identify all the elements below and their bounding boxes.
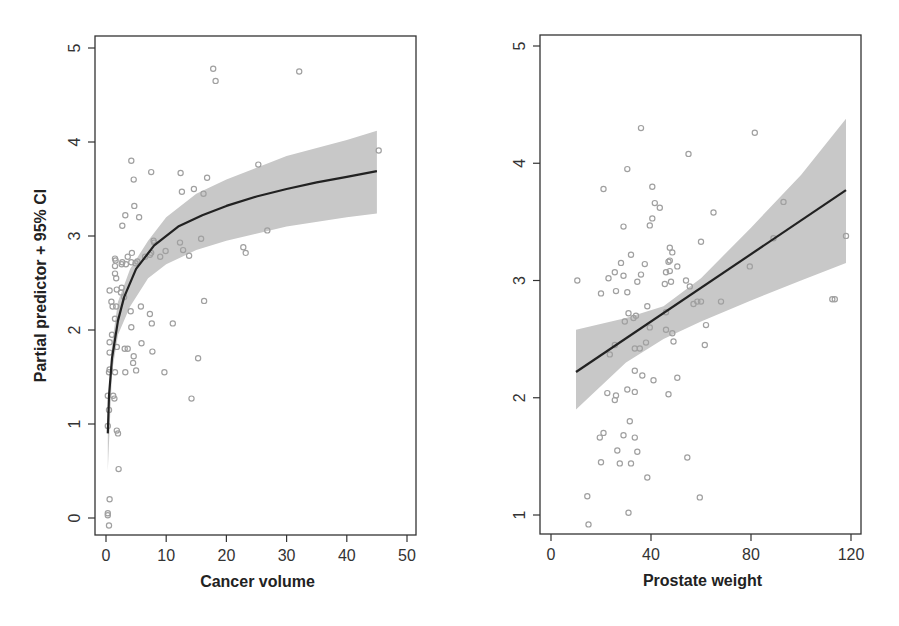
data-point: [618, 260, 623, 265]
scatter-points: [105, 66, 381, 528]
data-point: [123, 213, 128, 218]
data-point: [162, 370, 167, 375]
data-point: [147, 311, 152, 316]
figure: 01020304050012345Cancer volumePartial pr…: [0, 0, 899, 626]
y-tick-label: 2: [66, 325, 83, 334]
data-point: [647, 223, 652, 228]
data-point: [139, 341, 144, 346]
y-tick-label: 3: [66, 231, 83, 240]
confidence-band: [108, 131, 377, 471]
data-point: [137, 215, 142, 220]
data-point: [645, 475, 650, 480]
data-point: [632, 389, 637, 394]
data-point: [642, 262, 647, 267]
x-axis-label: Prostate weight: [643, 572, 763, 589]
data-point: [601, 430, 606, 435]
data-point: [123, 370, 128, 375]
data-point: [703, 323, 708, 328]
data-point: [112, 264, 117, 269]
x-tick-label: 50: [398, 547, 416, 564]
data-point: [129, 325, 134, 330]
x-tick-label: 0: [102, 547, 111, 564]
x-tick-label: 80: [742, 546, 760, 563]
data-point: [585, 494, 590, 499]
data-point: [149, 170, 154, 175]
data-point: [606, 276, 611, 281]
x-tick-label: 0: [547, 546, 556, 563]
data-point: [638, 272, 643, 277]
data-point: [632, 435, 637, 440]
confidence-band: [576, 119, 846, 410]
data-point: [138, 304, 143, 309]
x-tick-label: 10: [157, 547, 175, 564]
data-point: [132, 203, 137, 208]
data-point: [683, 278, 688, 283]
data-point: [598, 460, 603, 465]
data-point: [116, 467, 121, 472]
data-point: [202, 298, 207, 303]
data-point: [189, 396, 194, 401]
data-point: [640, 373, 645, 378]
data-point: [129, 158, 134, 163]
data-point: [635, 279, 640, 284]
data-point: [628, 461, 633, 466]
data-point: [617, 461, 622, 466]
data-point: [107, 497, 112, 502]
data-point: [657, 205, 662, 210]
data-point: [107, 288, 112, 293]
data-point: [650, 216, 655, 221]
data-point: [211, 66, 216, 71]
data-point: [752, 130, 757, 135]
data-point: [668, 279, 673, 284]
data-point: [178, 170, 183, 175]
y-tick-label: 2: [511, 393, 528, 402]
data-point: [598, 291, 603, 296]
data-point: [651, 378, 656, 383]
data-point: [586, 522, 591, 527]
data-point: [256, 162, 261, 167]
data-point: [605, 391, 610, 396]
data-point: [626, 510, 631, 515]
data-point: [625, 290, 630, 295]
data-point: [645, 304, 650, 309]
data-point: [625, 387, 630, 392]
data-point: [106, 523, 111, 528]
x-tick-label: 120: [838, 546, 865, 563]
y-tick-label: 5: [511, 41, 528, 50]
data-point: [662, 281, 667, 286]
data-point: [666, 392, 671, 397]
data-point: [597, 435, 602, 440]
y-tick-label: 1: [66, 419, 83, 428]
data-point: [120, 223, 125, 228]
data-point: [170, 321, 175, 326]
data-point: [612, 270, 617, 275]
data-point: [627, 419, 632, 424]
data-point: [150, 349, 155, 354]
data-point: [698, 239, 703, 244]
data-point: [615, 448, 620, 453]
data-point: [125, 254, 130, 259]
y-tick-label: 3: [511, 276, 528, 285]
x-tick-label: 40: [338, 547, 356, 564]
data-point: [191, 186, 196, 191]
data-point: [179, 189, 184, 194]
data-point: [241, 245, 246, 250]
data-point: [187, 253, 192, 258]
data-point: [638, 126, 643, 131]
data-point: [131, 354, 136, 359]
data-point: [675, 264, 680, 269]
y-tick-label: 5: [66, 43, 83, 52]
data-point: [667, 245, 672, 250]
y-tick-label: 4: [66, 137, 83, 146]
data-point: [131, 177, 136, 182]
data-point: [702, 342, 707, 347]
data-point: [635, 449, 640, 454]
data-point: [149, 321, 154, 326]
y-tick-label: 4: [511, 159, 528, 168]
data-point: [107, 340, 112, 345]
fit-line: [576, 190, 846, 372]
cancer-volume-panel: 01020304050012345Cancer volumePartial pr…: [32, 36, 416, 590]
data-point: [613, 289, 618, 294]
data-point: [626, 311, 631, 316]
data-point: [652, 201, 657, 206]
